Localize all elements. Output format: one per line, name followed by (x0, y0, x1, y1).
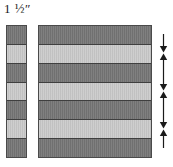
press-arrow-down-icon (156, 110, 170, 129)
press-arrow-up-icon (156, 129, 170, 148)
strip-band (7, 26, 26, 45)
strip-band (7, 120, 26, 139)
block-stripe (39, 83, 151, 102)
block-stripe (39, 26, 151, 45)
block-stripe (39, 45, 151, 64)
strip-band (7, 64, 26, 83)
strip-band (7, 139, 26, 157)
press-arrow-up-icon (156, 91, 170, 110)
pieced-block (38, 25, 152, 158)
block-stripe (39, 120, 151, 139)
press-arrow-down-icon (156, 34, 170, 53)
strip-piecing-figure: 1 ½″ (0, 0, 173, 167)
block-stripe (39, 101, 151, 120)
press-arrow-up-icon (156, 53, 170, 72)
press-arrows (156, 25, 170, 158)
strip-band (7, 101, 26, 120)
block-stripe (39, 139, 151, 157)
block-stripe (39, 64, 151, 83)
strip-unit (6, 25, 27, 158)
press-arrow-down-icon (156, 72, 170, 91)
strip-band (7, 83, 26, 102)
strip-band (7, 45, 26, 64)
measurement-label: 1 ½″ (4, 1, 31, 17)
